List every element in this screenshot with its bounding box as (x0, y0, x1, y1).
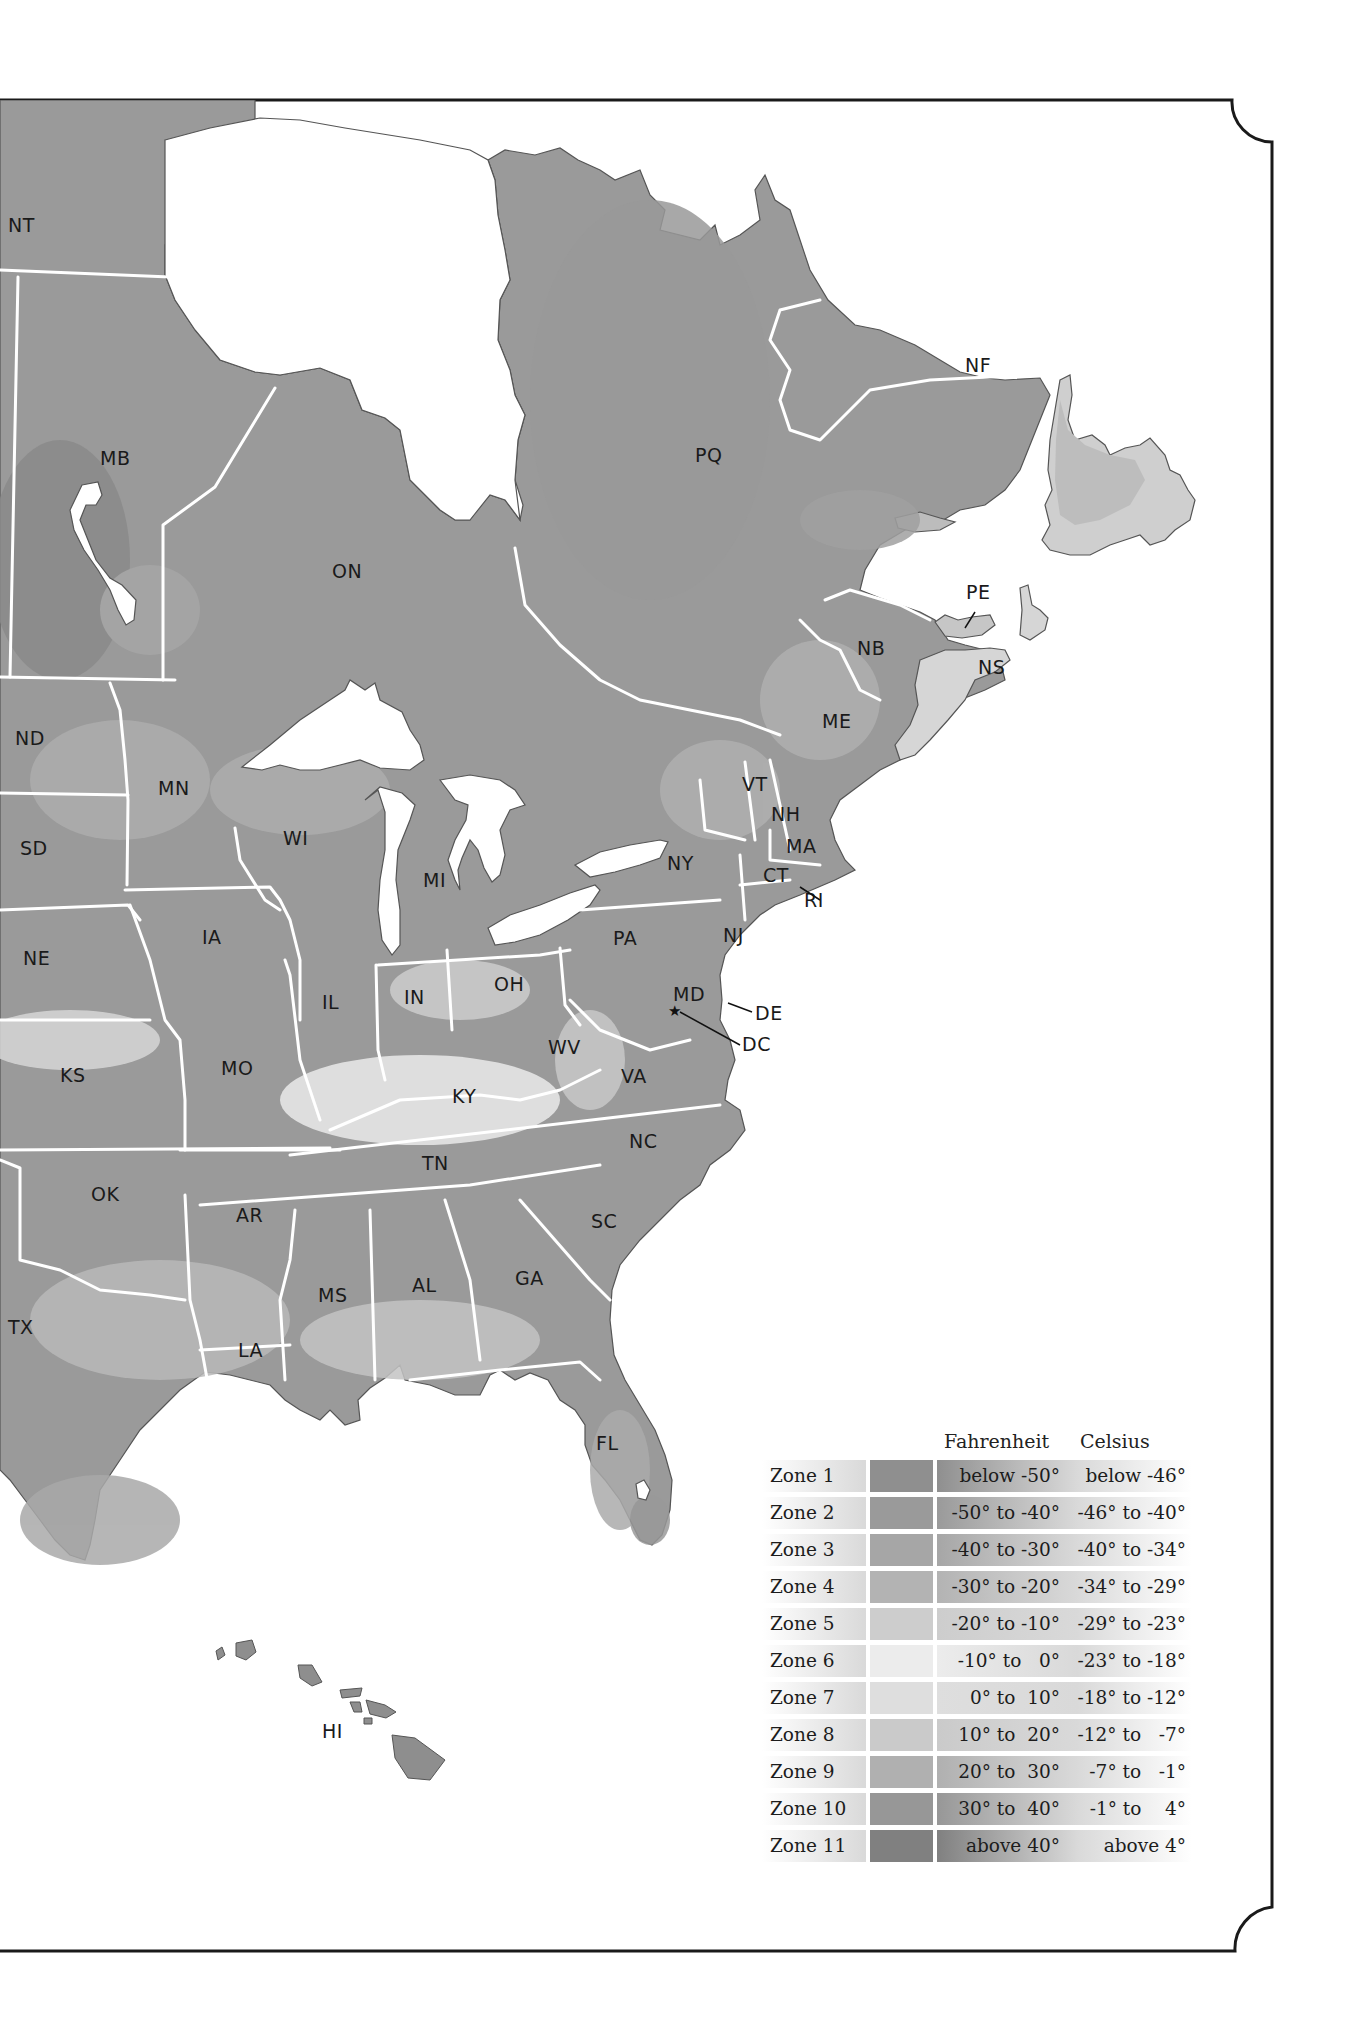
zone-values: 30° to 40°-1° to 4° (937, 1793, 1192, 1825)
zone-name: Zone 9 (762, 1756, 866, 1788)
label-al: AL (412, 1274, 437, 1296)
label-me: ME (822, 710, 851, 732)
label-ky: KY (452, 1085, 476, 1107)
zone-fahrenheit: -20° to -10° (952, 1608, 1060, 1640)
label-in: IN (404, 986, 425, 1008)
label-ks: KS (60, 1064, 86, 1086)
label-ms: MS (318, 1284, 347, 1306)
label-sd: SD (20, 837, 48, 859)
label-sc: SC (591, 1210, 617, 1232)
label-pe: PE (966, 581, 990, 603)
zone-fahrenheit: 10° to 20° (958, 1719, 1060, 1751)
zone-celsius: -1° to 4° (1090, 1793, 1186, 1825)
label-pa: PA (613, 927, 637, 949)
label-nh: NH (771, 803, 801, 825)
legend-row: Zone 6-10° to 0°-23° to -18° (762, 1645, 1192, 1677)
zone-fahrenheit: -40° to -30° (952, 1534, 1060, 1566)
zone-fahrenheit: below -50° (959, 1460, 1060, 1492)
label-mn: MN (158, 777, 190, 799)
label-nc: NC (629, 1130, 657, 1152)
zone-celsius: -46° to -40° (1078, 1497, 1186, 1529)
legend-row: Zone 4-30° to -20°-34° to -29° (762, 1571, 1192, 1603)
legend-row: Zone 11above 40°above 4° (762, 1830, 1192, 1862)
legend-row: Zone 1030° to 40°-1° to 4° (762, 1793, 1192, 1825)
zone-swatch (870, 1460, 933, 1492)
zone-values: below -50°below -46° (937, 1460, 1192, 1492)
zone-celsius: -7° to -1° (1089, 1756, 1186, 1788)
land-cape-breton (1020, 585, 1048, 640)
zone-values: -40° to -30°-40° to -34° (937, 1534, 1192, 1566)
label-ne: NE (23, 947, 50, 969)
zone-name: Zone 11 (762, 1830, 866, 1862)
legend-row: Zone 3-40° to -30°-40° to -34° (762, 1534, 1192, 1566)
zone-celsius: -12° to -7° (1078, 1719, 1186, 1751)
zone-fahrenheit: 0° to 10° (970, 1682, 1060, 1714)
label-ok: OK (91, 1183, 119, 1205)
zone-swatch (870, 1719, 933, 1751)
label-pq: PQ (695, 444, 722, 466)
zone-swatch (870, 1645, 933, 1677)
label-nd: ND (15, 727, 45, 749)
hawaii-islands (216, 1640, 445, 1780)
label-hi: HI (322, 1720, 343, 1742)
zone-values: 10° to 20°-12° to -7° (937, 1719, 1192, 1751)
zone-celsius: above 4° (1104, 1830, 1186, 1862)
legend-header-celsius: Celsius (1080, 1430, 1150, 1452)
legend-header-fahrenheit: Fahrenheit (944, 1430, 1049, 1452)
legend-row: Zone 70° to 10°-18° to -12° (762, 1682, 1192, 1714)
label-il: IL (322, 991, 339, 1013)
label-mb: MB (100, 447, 130, 469)
label-ns: NS (978, 656, 1005, 678)
zone-values: 20° to 30°-7° to -1° (937, 1756, 1192, 1788)
label-tx: TX (7, 1316, 34, 1338)
zone-values: 0° to 10°-18° to -12° (937, 1682, 1192, 1714)
label-nf: NF (965, 354, 991, 376)
label-ny: NY (667, 852, 694, 874)
star-icon: ★ (668, 1002, 681, 1020)
zone-celsius: -40° to -34° (1078, 1534, 1186, 1566)
zone-swatch (870, 1571, 933, 1603)
legend-row: Zone 920° to 30°-7° to -1° (762, 1756, 1192, 1788)
legend-row: Zone 1below -50°below -46° (762, 1460, 1192, 1492)
label-nj: NJ (723, 924, 744, 946)
legend-header: Fahrenheit Celsius (762, 1420, 1192, 1460)
zone-celsius: below -46° (1085, 1460, 1186, 1492)
zone-fahrenheit: 20° to 30° (958, 1756, 1060, 1788)
label-vt: VT (742, 773, 768, 795)
zone-name: Zone 3 (762, 1534, 866, 1566)
zone-legend: Fahrenheit Celsius Zone 1below -50°below… (762, 1420, 1192, 1867)
zone-fahrenheit: -50° to -40° (952, 1497, 1060, 1529)
label-mo: MO (221, 1057, 253, 1079)
label-nb: NB (857, 637, 885, 659)
legend-rows: Zone 1below -50°below -46°Zone 2-50° to … (762, 1460, 1192, 1862)
zone-fahrenheit: 30° to 40° (958, 1793, 1060, 1825)
label-mi: MI (423, 869, 446, 891)
zone-celsius: -29° to -23° (1078, 1608, 1186, 1640)
label-dc: DC (742, 1033, 771, 1055)
zone-name: Zone 7 (762, 1682, 866, 1714)
zone-name: Zone 4 (762, 1571, 866, 1603)
zone-name: Zone 6 (762, 1645, 866, 1677)
zone-swatch (870, 1497, 933, 1529)
legend-row: Zone 2-50° to -40°-46° to -40° (762, 1497, 1192, 1529)
zone-name: Zone 10 (762, 1793, 866, 1825)
label-ia: IA (202, 926, 222, 948)
label-la: LA (238, 1339, 263, 1361)
label-tn: TN (421, 1152, 449, 1174)
zone-name: Zone 8 (762, 1719, 866, 1751)
zone-swatch (870, 1534, 933, 1566)
legend-row: Zone 810° to 20°-12° to -7° (762, 1719, 1192, 1751)
label-ct: CT (763, 864, 789, 886)
zone-swatch (870, 1830, 933, 1862)
zone-celsius: -23° to -18° (1078, 1645, 1186, 1677)
zone-celsius: -34° to -29° (1078, 1571, 1186, 1603)
zone-swatch (870, 1793, 933, 1825)
zone-swatch (870, 1756, 933, 1788)
legend-row: Zone 5-20° to -10°-29° to -23° (762, 1608, 1192, 1640)
label-ma: MA (786, 835, 816, 857)
label-ga: GA (515, 1267, 544, 1289)
label-nt: NT (8, 214, 35, 236)
label-wi: WI (283, 827, 308, 849)
label-on: ON (332, 560, 362, 582)
zone-name: Zone 5 (762, 1608, 866, 1640)
